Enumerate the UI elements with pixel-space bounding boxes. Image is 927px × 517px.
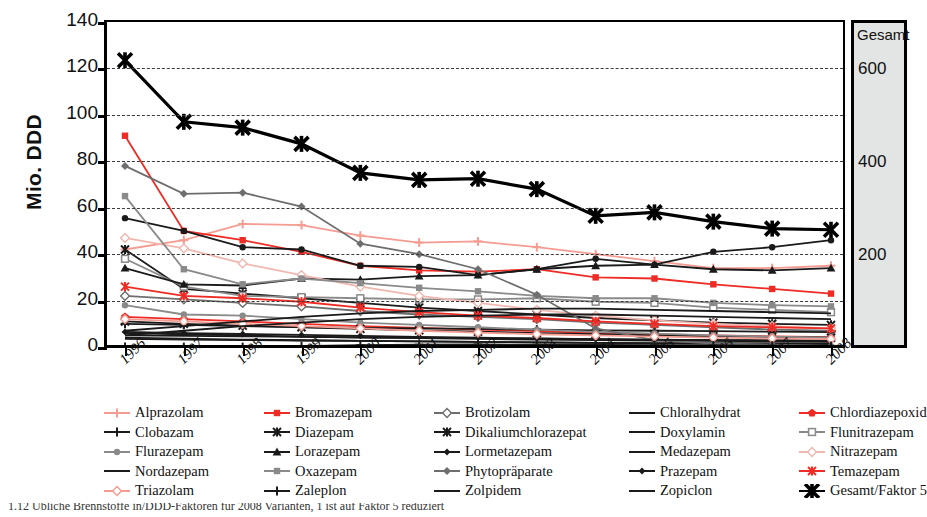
legend-marker-icon xyxy=(799,445,825,459)
legend-item[interactable]: Medazepam xyxy=(629,441,731,462)
legend-item[interactable]: Doxylamin xyxy=(629,422,725,443)
legend-item[interactable]: Bromazepam xyxy=(264,402,372,423)
legend-item[interactable]: Phytopräparate xyxy=(434,461,553,482)
legend-marker-icon xyxy=(434,445,460,459)
data-point xyxy=(769,244,775,250)
data-point xyxy=(239,281,245,287)
legend-marker-icon xyxy=(799,406,825,420)
legend-label: Diazepam xyxy=(295,424,354,441)
gridline xyxy=(107,208,843,209)
legend-item[interactable]: Diazepam xyxy=(264,422,354,443)
data-point xyxy=(239,189,247,197)
legend-item[interactable]: Chloralhydrat xyxy=(629,402,741,423)
legend-item[interactable]: Temazepam xyxy=(799,461,900,482)
legend-marker-icon xyxy=(104,445,130,459)
data-point xyxy=(534,266,540,272)
data-point xyxy=(122,302,128,308)
secondary-axis-title: Gesamt xyxy=(857,26,910,43)
legend-marker-icon xyxy=(264,484,290,498)
legend-item[interactable]: Clobazam xyxy=(104,422,194,443)
secondary-axis-value: 400 xyxy=(858,152,886,172)
data-point xyxy=(651,261,657,267)
plot-inner xyxy=(107,22,843,345)
plot-area xyxy=(104,20,845,348)
top-caption-cut xyxy=(0,0,914,14)
legend-item[interactable]: Oxazepam xyxy=(264,461,357,482)
legend-item[interactable]: Nitrazepam xyxy=(799,441,898,462)
gridline xyxy=(107,301,843,302)
data-point xyxy=(416,285,422,291)
data-point xyxy=(239,312,245,318)
data-point xyxy=(181,228,187,234)
legend-item[interactable]: Dikaliumchlorazepat xyxy=(434,422,587,443)
data-point xyxy=(592,256,598,262)
data-point xyxy=(122,255,129,262)
y-tick-mark xyxy=(98,254,107,257)
legend-item[interactable]: Nordazepam xyxy=(104,461,209,482)
series-line xyxy=(125,224,831,268)
y-tick-label: 140 xyxy=(42,9,98,31)
gridline xyxy=(107,115,843,116)
y-tick-mark xyxy=(98,161,107,164)
legend-label: Lormetazepam xyxy=(465,443,552,460)
y-tick-label: 80 xyxy=(42,148,98,170)
legend-item[interactable]: Alprazolam xyxy=(104,402,203,423)
legend-marker-icon xyxy=(799,425,825,439)
legend-label: Triazolam xyxy=(135,482,194,499)
legend-label: Zopiclon xyxy=(660,482,712,499)
legend-marker-icon xyxy=(104,406,130,420)
legend-item[interactable]: Zaleplon xyxy=(264,480,347,501)
legend-item[interactable]: Zopiclon xyxy=(629,480,712,501)
data-point xyxy=(828,309,835,316)
data-point xyxy=(415,238,424,247)
y-tick-label: 0 xyxy=(42,334,98,356)
data-point xyxy=(179,244,188,253)
data-point xyxy=(828,290,834,296)
legend-label: Temazepam xyxy=(830,463,900,480)
legend-marker-icon xyxy=(264,464,290,478)
legend-item[interactable]: Lorazepam xyxy=(264,441,360,462)
data-point xyxy=(828,237,834,243)
legend-label: Prazepam xyxy=(660,463,717,480)
legend-marker-icon xyxy=(104,484,130,498)
legend-label: Lorazepam xyxy=(295,443,360,460)
data-point xyxy=(239,244,245,250)
chart-legend: AlprazolamBromazepamBrotizolamChloralhyd… xyxy=(104,402,914,498)
legend-marker-icon xyxy=(434,425,460,439)
data-point xyxy=(769,302,775,308)
legend-item[interactable]: Triazolam xyxy=(104,480,194,501)
data-point xyxy=(238,259,247,268)
legend-label: Bromazepam xyxy=(295,404,372,421)
data-point xyxy=(238,220,247,229)
legend-label: Alprazolam xyxy=(135,404,203,421)
y-tick-label: 40 xyxy=(42,241,98,263)
legend-marker-icon xyxy=(104,464,130,478)
legend-label: Clobazam xyxy=(135,424,194,441)
data-point xyxy=(416,264,422,270)
secondary-axis-panel: Gesamt 200400600 xyxy=(851,20,907,348)
legend-item[interactable]: Lormetazepam xyxy=(434,441,552,462)
data-point xyxy=(710,281,716,287)
series-line xyxy=(125,60,831,229)
legend-label: Flurazepam xyxy=(135,443,203,460)
legend-item[interactable]: Chlordiazepoxid xyxy=(799,402,927,423)
y-tick-label: 20 xyxy=(42,288,98,310)
data-point xyxy=(181,266,187,272)
data-point xyxy=(122,329,129,336)
legend-item[interactable]: Zolpidem xyxy=(434,480,521,501)
gridline xyxy=(107,68,843,69)
legend-label: Chlordiazepoxid xyxy=(830,404,927,421)
legend-item[interactable]: Flunitrazepam xyxy=(799,422,914,443)
data-point xyxy=(121,162,129,170)
legend-item[interactable]: Gesamt/Faktor 5 xyxy=(799,480,927,501)
data-point xyxy=(828,303,834,309)
legend-label: Gesamt/Faktor 5 xyxy=(830,482,927,499)
legend-label: Zolpidem xyxy=(465,482,521,499)
y-tick-mark xyxy=(98,68,107,71)
legend-item[interactable]: Brotizolam xyxy=(434,402,530,423)
legend-marker-icon xyxy=(434,406,460,420)
legend-item[interactable]: Flurazepam xyxy=(104,441,203,462)
data-point xyxy=(357,280,363,286)
legend-item[interactable]: Prazepam xyxy=(629,461,717,482)
